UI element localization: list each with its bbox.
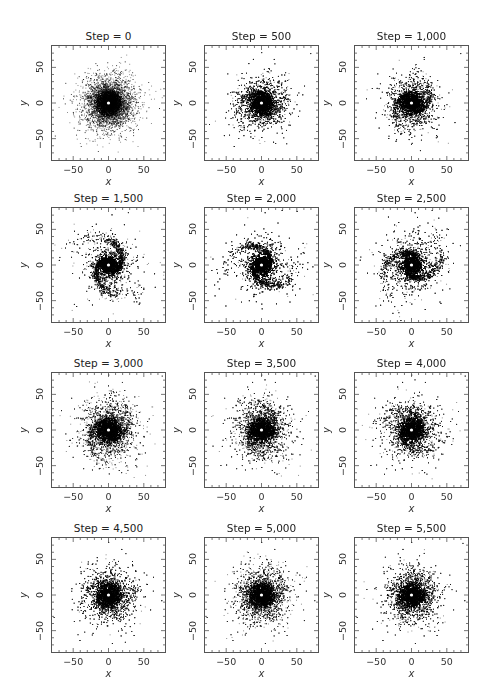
x-tick-label: −50 xyxy=(366,326,386,337)
scatter-panel: Step = 500−50−50005050xy xyxy=(204,45,319,161)
y-axis-label: y xyxy=(321,427,333,433)
panel-title: Step = 4,000 xyxy=(354,357,469,369)
panel-title: Step = 1,500 xyxy=(51,192,166,204)
x-tick-label: 50 xyxy=(441,491,453,502)
scatter-points xyxy=(355,538,469,653)
x-tick-label: −50 xyxy=(366,656,386,667)
x-tick-label: 0 xyxy=(258,326,264,337)
y-tick-label: −50 xyxy=(187,456,198,476)
y-tick-label: 50 xyxy=(187,61,198,73)
y-tick-label: 0 xyxy=(34,100,45,106)
plot-area xyxy=(204,45,319,161)
x-tick-label: −50 xyxy=(216,491,236,502)
x-tick-label: 50 xyxy=(291,491,303,502)
x-axis-label: x xyxy=(106,176,112,188)
y-tick-label: −50 xyxy=(34,129,45,149)
x-axis-label: x xyxy=(409,176,415,188)
plot-area xyxy=(354,372,469,488)
y-axis-label: y xyxy=(18,592,30,598)
y-tick-label: 0 xyxy=(34,262,45,268)
scatter-panel: Step = 0−50−50005050xy xyxy=(51,45,166,161)
y-tick-label: 50 xyxy=(337,388,348,400)
x-tick-label: 50 xyxy=(138,326,150,337)
scatter-points xyxy=(205,373,319,488)
panel-title: Step = 2,000 xyxy=(204,192,319,204)
y-tick-label: 0 xyxy=(187,100,198,106)
x-tick-label: 0 xyxy=(105,164,111,175)
y-tick-label: 0 xyxy=(337,262,348,268)
plot-area xyxy=(354,45,469,161)
y-tick-label: 0 xyxy=(337,100,348,106)
x-axis-label: x xyxy=(259,668,265,680)
y-axis-label: y xyxy=(18,262,30,268)
x-tick-label: 50 xyxy=(291,326,303,337)
scatter-points xyxy=(355,46,469,161)
scatter-points xyxy=(52,538,166,653)
y-tick-label: 50 xyxy=(34,223,45,235)
plot-area xyxy=(51,45,166,161)
x-tick-label: −50 xyxy=(63,656,83,667)
y-tick-label: 50 xyxy=(34,388,45,400)
x-tick-label: −50 xyxy=(366,491,386,502)
scatter-panel: Step = 3,000−50−50005050xy xyxy=(51,372,166,488)
plot-area xyxy=(51,207,166,323)
x-tick-label: 50 xyxy=(291,164,303,175)
y-tick-label: 0 xyxy=(187,427,198,433)
y-tick-label: −50 xyxy=(34,621,45,641)
panel-title: Step = 500 xyxy=(204,30,319,42)
scatter-panel: Step = 2,500−50−50005050xy xyxy=(354,207,469,323)
y-tick-label: −50 xyxy=(187,291,198,311)
x-tick-label: −50 xyxy=(216,656,236,667)
x-tick-label: 0 xyxy=(408,326,414,337)
panel-title: Step = 0 xyxy=(51,30,166,42)
panel-title: Step = 4,500 xyxy=(51,522,166,534)
x-axis-label: x xyxy=(106,338,112,350)
x-tick-label: 0 xyxy=(105,656,111,667)
x-tick-label: 50 xyxy=(441,656,453,667)
y-tick-label: −50 xyxy=(337,456,348,476)
scatter-points xyxy=(205,208,319,323)
y-tick-label: 50 xyxy=(337,553,348,565)
x-tick-label: −50 xyxy=(63,491,83,502)
x-axis-label: x xyxy=(259,503,265,515)
scatter-panel: Step = 5,500−50−50005050xy xyxy=(354,537,469,653)
y-tick-label: −50 xyxy=(337,621,348,641)
y-axis-label: y xyxy=(18,427,30,433)
x-tick-label: −50 xyxy=(216,164,236,175)
y-axis-label: y xyxy=(321,592,333,598)
plot-area xyxy=(51,372,166,488)
plot-area xyxy=(204,537,319,653)
panel-title: Step = 5,000 xyxy=(204,522,319,534)
x-tick-label: −50 xyxy=(216,326,236,337)
x-axis-label: x xyxy=(409,668,415,680)
x-tick-label: 0 xyxy=(258,164,264,175)
scatter-points xyxy=(355,373,469,488)
x-tick-label: 0 xyxy=(408,491,414,502)
plot-area xyxy=(354,207,469,323)
scatter-panel: Step = 4,000−50−50005050xy xyxy=(354,372,469,488)
x-tick-label: 50 xyxy=(441,164,453,175)
x-tick-label: 0 xyxy=(258,491,264,502)
y-tick-label: −50 xyxy=(337,129,348,149)
y-tick-label: 0 xyxy=(337,592,348,598)
scatter-panel: Step = 3,500−50−50005050xy xyxy=(204,372,319,488)
y-axis-label: y xyxy=(18,100,30,106)
x-tick-label: 0 xyxy=(408,656,414,667)
x-axis-label: x xyxy=(106,668,112,680)
scatter-points xyxy=(205,538,319,653)
y-tick-label: 50 xyxy=(187,388,198,400)
scatter-panel: Step = 2,000−50−50005050xy xyxy=(204,207,319,323)
y-tick-label: 0 xyxy=(34,592,45,598)
x-tick-label: 0 xyxy=(105,326,111,337)
plot-area xyxy=(354,537,469,653)
panel-title: Step = 3,000 xyxy=(51,357,166,369)
x-tick-label: 50 xyxy=(138,656,150,667)
scatter-points xyxy=(52,373,166,488)
scatter-panel: Step = 1,500−50−50005050xy xyxy=(51,207,166,323)
panel-title: Step = 5,500 xyxy=(354,522,469,534)
y-tick-label: −50 xyxy=(34,291,45,311)
x-tick-label: 0 xyxy=(258,656,264,667)
x-tick-label: −50 xyxy=(366,164,386,175)
x-tick-label: −50 xyxy=(63,164,83,175)
x-tick-label: 0 xyxy=(408,164,414,175)
